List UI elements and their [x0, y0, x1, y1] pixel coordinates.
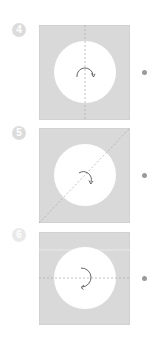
step-number-badge: 6 [12, 228, 26, 242]
folding-panel [39, 128, 130, 223]
panel-graphic [39, 232, 130, 325]
step-number-badge: 4 [12, 23, 26, 37]
indicator-dot [142, 276, 147, 281]
indicator-dot [142, 70, 147, 75]
folding-panel [39, 25, 130, 120]
folding-panel [39, 232, 130, 325]
indicator-dot [142, 173, 147, 178]
circle-cutout [54, 144, 116, 206]
step-number-badge: 5 [12, 126, 26, 140]
panel-graphic [39, 25, 130, 120]
panel-graphic [39, 128, 130, 223]
